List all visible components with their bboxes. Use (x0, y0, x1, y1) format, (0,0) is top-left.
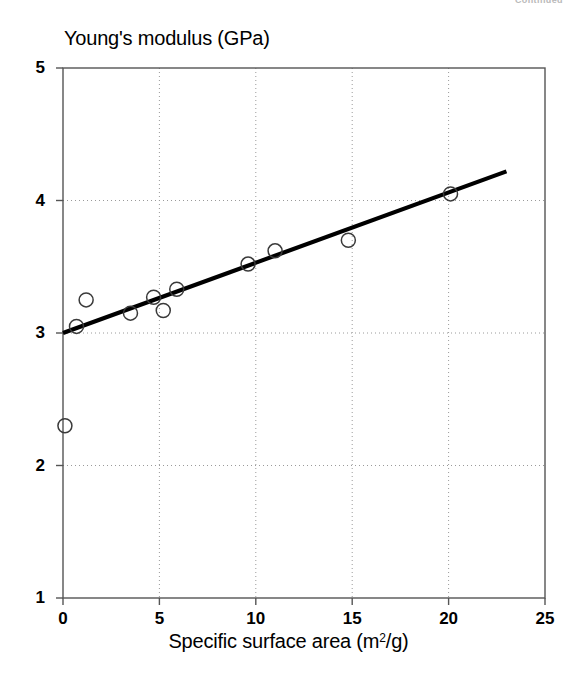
regression-line (63, 171, 506, 333)
data-point-marker (341, 233, 355, 247)
x-tick-label: 5 (139, 610, 179, 627)
x-tick-label: 10 (236, 610, 276, 627)
x-tick-label: 20 (429, 610, 469, 627)
y-tick-label: 3 (11, 324, 45, 341)
x-tick-label: 15 (332, 610, 372, 627)
x-axis-title: Specific surface area (m2/g) (0, 630, 577, 653)
x-axis-title-tail: /g) (386, 630, 409, 652)
y-tick-label: 5 (11, 59, 45, 76)
y-tick-label: 2 (11, 457, 45, 474)
axis-ticks (56, 68, 545, 605)
data-point-marker (79, 293, 93, 307)
data-point-marker (58, 419, 72, 433)
chart-figure: Continued Young's modulus (GPa) 12345 05… (0, 0, 577, 680)
plot-canvas (0, 0, 577, 680)
trend-line (63, 171, 506, 333)
x-tick-label: 0 (43, 610, 83, 627)
x-axis-title-base: Specific surface area (m (168, 630, 379, 652)
data-point-marker (156, 303, 170, 317)
data-points (58, 187, 458, 433)
x-tick-label: 25 (525, 610, 565, 627)
y-tick-label: 1 (11, 589, 45, 606)
y-tick-label: 4 (11, 192, 45, 209)
gridlines (63, 68, 545, 598)
